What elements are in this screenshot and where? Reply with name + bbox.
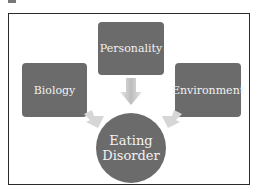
node-personality: Personality xyxy=(98,22,164,75)
node-label: Personality xyxy=(100,42,162,55)
node-biology: Biology xyxy=(22,63,87,117)
center-label-line2: Disorder xyxy=(102,148,160,163)
node-label: Environment xyxy=(172,84,244,97)
center-label-line1: Eating xyxy=(109,133,152,148)
cropped-caption-fragment xyxy=(8,0,16,3)
node-label: Biology xyxy=(34,84,76,97)
node-environment: Environment xyxy=(175,63,241,117)
arrow-diagonal-icon xyxy=(84,110,104,128)
center-node-eating-disorder: Eating Disorder xyxy=(96,113,166,183)
arrow-down-icon xyxy=(120,78,142,105)
arrow-diagonal-icon xyxy=(162,110,182,128)
